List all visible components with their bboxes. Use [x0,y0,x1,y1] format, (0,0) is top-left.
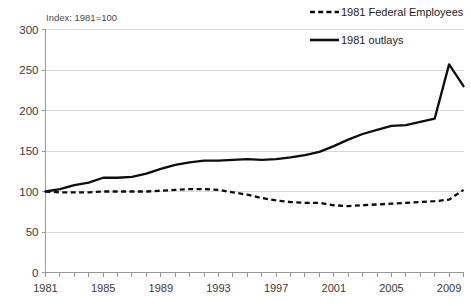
legend-label-outlays: 1981 outlays [341,34,404,46]
y-tick-label: 250 [19,64,38,76]
y-tick-label: 200 [19,105,38,117]
y-axis-tick-labels: 050100150200250300 [19,24,38,279]
y-tick-label: 0 [32,267,38,279]
y-tick-label: 100 [19,186,38,198]
legend-label-federal-employees: 1981 Federal Employees [341,6,464,18]
x-tick-label: 2001 [322,282,346,294]
y-tick-label: 50 [26,226,39,238]
index-note-label: Index: 1981=100 [46,12,117,23]
x-tick-label: 1993 [206,282,230,294]
y-tick-label: 300 [19,24,38,36]
gridlines [42,30,464,273]
chart-legend: 1981 Federal Employees 1981 outlays [310,6,464,46]
x-tick-label: 1985 [91,282,115,294]
x-tick-label: 1989 [149,282,173,294]
index-line-chart: 050100150200250300 198119851989199319972… [0,0,471,306]
x-tick-label: 1981 [33,282,57,294]
x-axis-tick-labels: 19811985198919931997200120052009 [33,282,461,294]
x-tick-label: 2005 [379,282,403,294]
x-tick-label: 1997 [264,282,288,294]
series-line-1981-outlays [46,64,464,191]
chart-container: 050100150200250300 198119851989199319972… [0,0,471,306]
x-tick-label: 2009 [437,282,461,294]
y-tick-label: 150 [19,145,38,157]
x-axis-tick-marks [46,273,464,277]
